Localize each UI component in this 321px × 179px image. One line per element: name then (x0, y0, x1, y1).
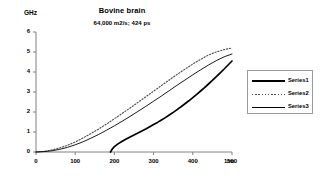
x-tick-400: 400 (181, 158, 205, 164)
legend-label-series3: Series3 (288, 103, 309, 109)
y-tick-4: 4 (18, 68, 30, 74)
x-tick-100: 100 (63, 158, 87, 164)
legend-label-series1: Series1 (288, 77, 309, 83)
x-tick-500: 500 (220, 158, 244, 164)
y-tick-5: 5 (18, 48, 30, 54)
series-lines (36, 48, 232, 152)
x-tick-200: 200 (102, 158, 126, 164)
legend-swatch-series2 (252, 94, 285, 95)
y-tick-0: 0 (18, 148, 30, 154)
x-tick-0: 0 (24, 158, 48, 164)
legend-swatch-series3 (252, 107, 285, 108)
chart-container: Bovine brain 64,000 m2/s; 424 ps GHz 1/m… (0, 0, 321, 179)
legend-item-series1[interactable]: Series1 (248, 75, 314, 87)
legend-swatch-series1 (252, 80, 285, 82)
legend-item-series3[interactable]: Series3 (248, 101, 314, 113)
x-tick-300: 300 (142, 158, 166, 164)
series-line-series3 (36, 54, 232, 152)
y-tick-3: 3 (18, 88, 30, 94)
y-tick-2: 2 (18, 108, 30, 114)
legend-label-series2: Series2 (288, 90, 309, 96)
legend-box: Series1 Series2 Series3 (247, 70, 313, 114)
y-tick-1: 1 (18, 128, 30, 134)
y-tick-6: 6 (18, 28, 30, 34)
series-line-series2 (36, 48, 232, 152)
series-line-series1 (110, 61, 232, 152)
legend-item-series2[interactable]: Series2 (248, 88, 314, 100)
